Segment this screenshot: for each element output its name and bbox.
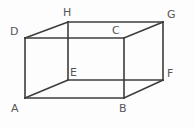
vertex-label-h: H: [63, 7, 71, 18]
vertex-label-f: F: [167, 68, 173, 79]
vertex-label-g: G: [167, 9, 176, 20]
vertex-label-d: D: [10, 26, 18, 37]
cuboid-edge-cg: [124, 22, 163, 38]
geometry-figure-canvas: ABCDEFGH: [0, 0, 195, 128]
cuboid-drawing: [0, 0, 195, 128]
edge-layer: [25, 22, 163, 98]
vertex-label-b: B: [119, 103, 127, 114]
cuboid-edge-dh: [25, 22, 68, 38]
cuboid-edge-bf: [124, 80, 163, 98]
vertex-label-e: E: [70, 67, 77, 78]
vertex-label-a: A: [11, 103, 19, 114]
cuboid-edge-ae: [25, 80, 68, 98]
vertex-label-c: C: [112, 25, 120, 36]
